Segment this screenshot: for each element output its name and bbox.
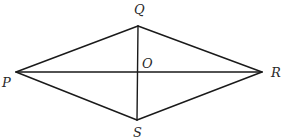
side-qr: [138, 26, 262, 72]
side-sp: [16, 72, 137, 120]
vertex-label-p: P: [1, 75, 11, 90]
side-pq: [16, 26, 138, 72]
vertex-label-s: S: [133, 125, 142, 139]
rhombus-diagonals: [16, 26, 262, 120]
rhombus-sides: [16, 26, 262, 120]
diagonal-qs: [137, 26, 138, 120]
rhombus-diagram: Q P R S O: [0, 0, 283, 139]
vertex-label-q: Q: [134, 2, 145, 17]
vertex-label-r: R: [270, 65, 281, 80]
side-rs: [137, 72, 262, 120]
center-label-o: O: [142, 56, 153, 71]
